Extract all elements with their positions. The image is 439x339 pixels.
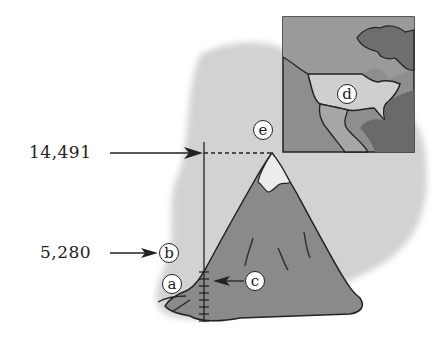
diagram-illustration: [0, 0, 439, 339]
marker-e: e: [253, 120, 273, 140]
summit-elevation-label: 14,491: [29, 142, 91, 162]
marker-c: c: [245, 271, 265, 291]
mile-elevation-label: 5,280: [40, 242, 91, 262]
mile-arrow: [110, 248, 158, 258]
marker-d: d: [337, 84, 357, 104]
marker-a: a: [162, 274, 182, 294]
marker-b: b: [159, 243, 179, 263]
summit-arrow: [110, 147, 203, 159]
